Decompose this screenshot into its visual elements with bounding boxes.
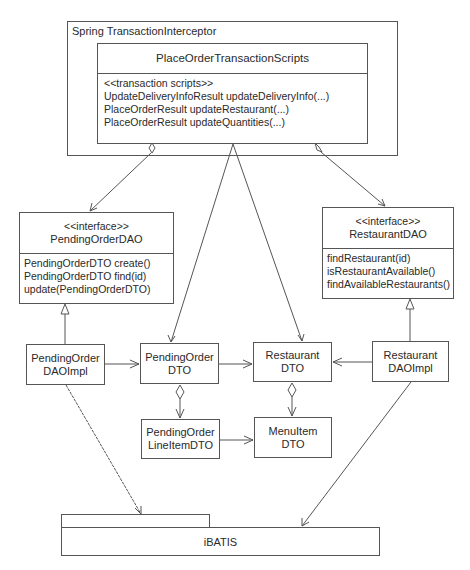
dependency-edge-pending-order-dto	[168, 144, 233, 342]
arrowhead-icon	[378, 199, 385, 206]
restaurant-dao-impl-class[interactable]: Restaurant DAOImpl	[372, 341, 449, 382]
aggregation-edge-line-item	[176, 385, 184, 418]
arrowhead-icon	[135, 506, 141, 514]
interface-name: PendingOrderDAO	[50, 233, 142, 246]
stereotype: <<interface>>	[356, 215, 421, 228]
aggregation-diamond-icon	[288, 383, 296, 397]
interface-name: RestaurantDAO	[349, 228, 427, 241]
place-order-transaction-scripts-class[interactable]: PlaceOrderTransactionScripts <<transacti…	[97, 43, 368, 144]
class-name-line2: DTO	[281, 438, 304, 451]
operation: update(PendingOrderDTO)	[24, 283, 150, 296]
triangle-icon	[406, 299, 414, 309]
container-label: Spring TransactionInterceptor	[72, 25, 216, 38]
dependency-edge-restaurant-dao-impl-to-dto	[333, 358, 372, 366]
realization-edge-restaurant-dao-impl	[406, 299, 414, 341]
interface-header: <<interface>> RestaurantDAO	[323, 208, 453, 248]
operations-list: <<transaction scripts>> UpdateDeliveryIn…	[104, 77, 329, 129]
arrowhead-icon	[90, 203, 97, 211]
class-name-line2: LineItemDTO	[148, 439, 213, 452]
arrowhead-icon	[130, 360, 139, 368]
class-name-line1: Restaurant	[384, 349, 438, 362]
arrowhead-icon	[243, 360, 252, 368]
arrowhead-icon	[176, 409, 184, 418]
arrowhead-icon	[298, 334, 304, 341]
aggregation-edge-menu-item	[288, 383, 296, 416]
dependency-edge-restaurant-dto	[233, 144, 304, 341]
class-title: PlaceOrderTransactionScripts	[98, 44, 367, 73]
class-name-line1: PendingOrder	[145, 351, 214, 364]
dependency-edge-line-item-to-menu-item	[220, 436, 253, 444]
restaurant-dao-interface[interactable]: <<interface>> RestaurantDAO findRestaura…	[322, 207, 454, 299]
divider	[20, 253, 173, 254]
ibatis-label: iBATIS	[204, 536, 237, 548]
interface-header: <<interface>> PendingOrderDAO	[20, 213, 173, 253]
class-name-line2: DTO	[168, 364, 191, 377]
dependency-edge-dao-impl-to-ibatis	[66, 385, 141, 514]
class-name-line1: PendingOrder	[31, 352, 100, 365]
operation: PendingOrderDTO create()	[24, 257, 150, 270]
operation: findRestaurant(id)	[327, 252, 450, 265]
class-name-line1: MenuItem	[269, 425, 318, 438]
arrowhead-icon	[302, 518, 309, 526]
arrowhead-icon	[333, 358, 342, 366]
menu-item-dto-class[interactable]: MenuItem DTO	[254, 417, 332, 458]
pending-order-dao-interface[interactable]: <<interface>> PendingOrderDAO PendingOrd…	[19, 212, 174, 304]
dependency-edge-dao-impl-to-dto	[105, 360, 139, 368]
operations-list: PendingOrderDTO create() PendingOrderDTO…	[24, 257, 150, 296]
pending-order-dto-class[interactable]: PendingOrder DTO	[140, 343, 219, 384]
class-name-line1: PendingOrder	[146, 426, 215, 439]
divider	[323, 248, 453, 249]
ibatis-component[interactable]: iBATIS	[61, 527, 380, 556]
triangle-icon	[61, 304, 69, 314]
operation: PlaceOrderResult updateRestaurant(...)	[104, 103, 329, 116]
operation: PlaceOrderResult updateQuantities(...)	[104, 116, 329, 129]
stereotype: <<interface>>	[64, 220, 129, 233]
operation: <<transaction scripts>>	[104, 77, 329, 90]
ibatis-tab	[61, 514, 210, 528]
class-name-line2: DAOImpl	[43, 365, 88, 378]
arrowhead-icon	[168, 335, 175, 342]
operation: findAvailableRestaurants()	[327, 278, 450, 291]
class-name-line2: DTO	[281, 362, 304, 375]
pending-order-dao-impl-class[interactable]: PendingOrder DAOImpl	[26, 344, 105, 385]
arrowhead-icon	[244, 436, 253, 444]
class-name-line2: DAOImpl	[388, 362, 433, 375]
arrowhead-icon	[288, 407, 296, 416]
aggregation-diamond-icon	[176, 385, 184, 399]
realization-edge-pending-order-dao-impl	[61, 304, 69, 344]
operations-list: findRestaurant(id) isRestaurantAvailable…	[327, 252, 450, 291]
operation: UpdateDeliveryInfoResult updateDeliveryI…	[104, 90, 329, 103]
operation: PendingOrderDTO find(id)	[24, 270, 150, 283]
dependency-edge-pending-to-restaurant-dto	[219, 360, 252, 368]
divider	[98, 73, 367, 74]
restaurant-dto-class[interactable]: Restaurant DTO	[253, 342, 332, 382]
operation: isRestaurantAvailable()	[327, 265, 450, 278]
pending-order-line-item-dto-class[interactable]: PendingOrder LineItemDTO	[141, 419, 220, 459]
class-name-line1: Restaurant	[266, 349, 320, 362]
